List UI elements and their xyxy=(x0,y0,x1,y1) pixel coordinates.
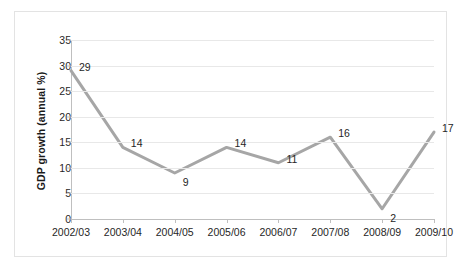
y-axis-tick-mark xyxy=(67,91,71,92)
data-point-label: 14 xyxy=(131,137,143,149)
y-axis-tick-mark xyxy=(67,40,71,41)
data-point-label: 29 xyxy=(79,61,91,73)
gridline xyxy=(71,40,434,41)
gridline xyxy=(71,91,434,92)
x-axis-tick-mark xyxy=(227,219,228,223)
gridline xyxy=(71,142,434,143)
x-axis-tick-label: 2009/10 xyxy=(415,226,453,238)
x-axis-tick-mark xyxy=(278,219,279,223)
x-axis-tick-label: 2008/09 xyxy=(363,226,401,238)
x-axis-tick-label: 2004/05 xyxy=(156,226,194,238)
x-axis-tick-labels: 2002/032003/042004/052005/062006/072007/… xyxy=(71,226,435,246)
x-axis-tick-mark xyxy=(330,219,331,223)
data-point-label: 17 xyxy=(442,122,454,134)
y-axis-tick-mark xyxy=(67,65,71,66)
x-axis-tick-label: 2005/06 xyxy=(208,226,246,238)
data-point-label: 16 xyxy=(338,127,350,139)
x-axis-tick-mark xyxy=(434,219,435,223)
gridline xyxy=(71,168,434,169)
x-axis-tick-mark xyxy=(71,219,72,223)
x-axis-tick-mark xyxy=(382,219,383,223)
data-point-label: 2 xyxy=(390,212,396,224)
y-axis-tick-mark xyxy=(67,167,71,168)
chart-container: GDP growth (annual %) 05101520253035 291… xyxy=(14,11,447,257)
gridline xyxy=(71,66,434,67)
x-axis-tick-label: 2007/08 xyxy=(311,226,349,238)
x-axis-tick-label: 2003/04 xyxy=(104,226,142,238)
gridline xyxy=(71,117,434,118)
y-axis-tick-mark xyxy=(67,142,71,143)
gridline xyxy=(71,193,434,194)
x-axis-tick-mark xyxy=(175,219,176,223)
series-line-gdp-growth xyxy=(71,40,434,219)
data-point-label: 11 xyxy=(286,153,297,165)
x-axis-line xyxy=(71,219,435,220)
data-point-label: 14 xyxy=(235,137,247,149)
x-axis-tick-mark xyxy=(123,219,124,223)
y-axis-tick-mark xyxy=(67,116,71,117)
x-axis-tick-label: 2006/07 xyxy=(259,226,297,238)
x-axis-tick-label: 2002/03 xyxy=(52,226,90,238)
plot-area: 29149141116217 xyxy=(71,40,434,219)
data-point-label: 9 xyxy=(183,176,189,188)
y-axis-tick-mark xyxy=(67,193,71,194)
